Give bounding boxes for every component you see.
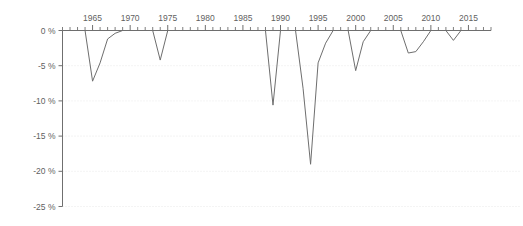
x-axis-tick-label: 1990 <box>271 13 290 23</box>
x-axis-tick-label: 1995 <box>309 13 328 23</box>
y-axis-tick-label: -25 % <box>33 202 56 212</box>
y-axis-labels: 0 %-5 %-10 %-15 %-20 %-25 % <box>33 26 56 212</box>
y-axis-tick-label: 0 % <box>41 26 56 36</box>
x-axis-tick-label: 1980 <box>196 13 215 23</box>
x-axis-tick-label: 1975 <box>158 13 177 23</box>
y-axis-tick-label: -5 % <box>38 61 56 71</box>
x-axis-tick-label: 1965 <box>83 13 102 23</box>
x-axis-tick-label: 1985 <box>233 13 252 23</box>
x-axis-tick-label: 2010 <box>421 13 440 23</box>
x-axis-tick-label: 2015 <box>459 13 478 23</box>
series-line-drawdown <box>63 31 492 165</box>
chart-container: 1965197019751980198519901995200020052010… <box>0 0 523 226</box>
y-axis-ticks <box>59 31 63 207</box>
x-axis-tick-label: 2000 <box>346 13 365 23</box>
y-axis-tick-label: -10 % <box>33 96 56 106</box>
y-axis-tick-label: -20 % <box>33 166 56 176</box>
x-axis-tick-label: 2005 <box>384 13 403 23</box>
x-axis-ticks <box>63 25 492 31</box>
line-chart: 1965197019751980198519901995200020052010… <box>0 0 523 226</box>
x-axis-tick-label: 1970 <box>121 13 140 23</box>
gridlines <box>63 66 522 207</box>
y-axis-tick-label: -15 % <box>33 131 56 141</box>
x-axis-labels: 1965197019751980198519901995200020052010… <box>83 13 478 23</box>
